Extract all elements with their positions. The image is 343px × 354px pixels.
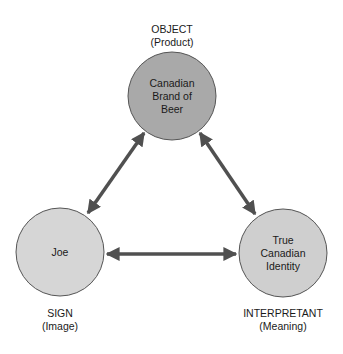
object-text-line: Beer bbox=[161, 103, 183, 116]
interpretant-text-line: Canadian bbox=[261, 247, 306, 260]
interpretant-role-title: INTERPRETANT bbox=[223, 307, 343, 320]
interpretant-text-line: True bbox=[272, 234, 293, 247]
object-text-line: Canadian bbox=[150, 77, 195, 90]
edge-object-sign bbox=[88, 133, 144, 213]
interpretant-text-line: Identity bbox=[266, 260, 300, 273]
object-node-text: Canadian Brand of Beer bbox=[128, 52, 216, 140]
object-role-title: OBJECT bbox=[122, 23, 222, 36]
object-role-subtitle: (Product) bbox=[122, 36, 222, 49]
sign-role-title: SIGN bbox=[10, 307, 110, 320]
object-text-line: Brand of bbox=[152, 90, 192, 103]
interpretant-role-subtitle: (Meaning) bbox=[223, 320, 343, 333]
sign-role-label: SIGN (Image) bbox=[10, 307, 110, 333]
sign-role-subtitle: (Image) bbox=[10, 320, 110, 333]
edge-object-interpretant bbox=[200, 133, 255, 214]
sign-text-line: Joe bbox=[52, 246, 69, 259]
object-role-label: OBJECT (Product) bbox=[122, 23, 222, 49]
interpretant-role-label: INTERPRETANT (Meaning) bbox=[223, 307, 343, 333]
interpretant-node-text: True Canadian Identity bbox=[239, 209, 327, 297]
sign-node-text: Joe bbox=[16, 208, 104, 296]
